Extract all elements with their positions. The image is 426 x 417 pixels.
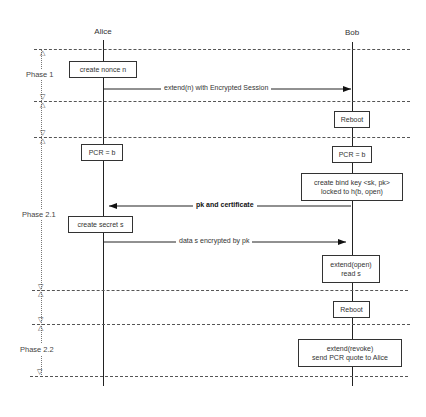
msg-extend-n-label: extend(n) with Encrypted Session [161,84,271,91]
msg-data-s-label: data s encrypted by pk [176,237,252,244]
message-arrows [0,0,426,417]
msg-pk-certificate-label: pk and certificate [193,201,257,208]
